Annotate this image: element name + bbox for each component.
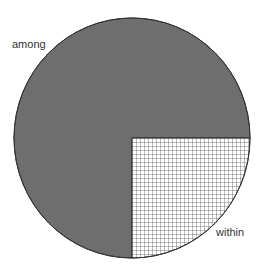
slice-label-within: within [216, 226, 244, 238]
slice-label-among: among [12, 38, 46, 50]
slice-within [132, 138, 250, 258]
